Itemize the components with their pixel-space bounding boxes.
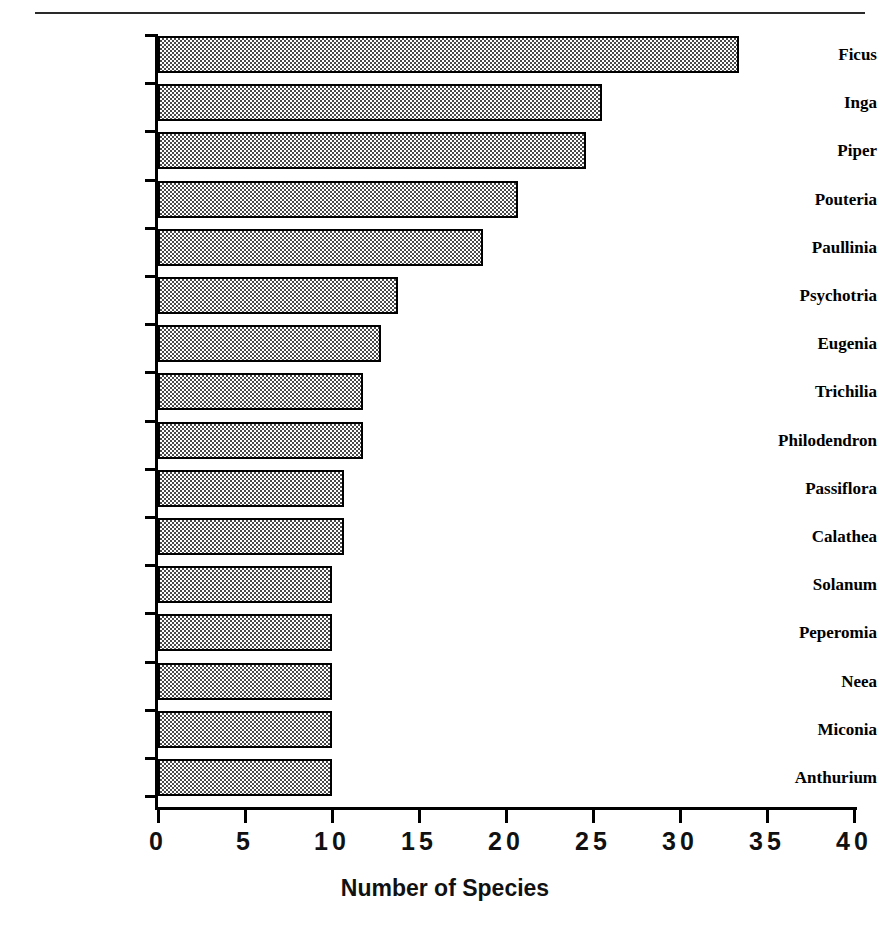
- y-label-ficus: Ficus: [742, 36, 890, 73]
- bar-eugenia: [158, 325, 381, 362]
- bar-fill: [158, 229, 483, 266]
- y-label-paullinia: Paullinia: [742, 229, 890, 266]
- bar-trichilia: [158, 373, 363, 410]
- bar-fill: [158, 277, 398, 314]
- y-tick-mark: [145, 323, 157, 326]
- bar-neea: [158, 663, 332, 700]
- bar-fill: [158, 181, 518, 218]
- bar-calathea: [158, 518, 344, 555]
- bar-piper: [158, 132, 586, 169]
- y-label-eugenia: Eugenia: [742, 325, 890, 362]
- x-tick-mark: [505, 810, 508, 823]
- y-tick-mark: [145, 468, 157, 471]
- x-tick-label-5: 5: [215, 827, 275, 856]
- y-tick-mark: [145, 516, 157, 519]
- x-tick-mark: [331, 810, 334, 823]
- x-tick-mark: [853, 810, 856, 823]
- y-tick-mark: [145, 82, 157, 85]
- y-label-passiflora: Passiflora: [742, 470, 890, 507]
- bar-peperomia: [158, 614, 332, 651]
- bar-fill: [158, 84, 602, 121]
- x-tick-label-40: 40: [824, 827, 884, 856]
- y-tick-mark: [145, 34, 157, 37]
- bar-psychotria: [158, 277, 398, 314]
- x-tick-label-10: 10: [302, 827, 362, 856]
- y-tick-mark: [145, 371, 157, 374]
- y-tick-mark: [145, 179, 157, 182]
- bar-fill: [158, 36, 739, 73]
- y-tick-mark: [145, 757, 157, 760]
- y-tick-mark: [145, 275, 157, 278]
- y-tick-mark: [145, 661, 157, 664]
- x-tick-label-30: 30: [650, 827, 710, 856]
- y-label-inga: Inga: [742, 84, 890, 121]
- x-tick-label-0: 0: [128, 827, 188, 856]
- bar-fill: [158, 132, 586, 169]
- y-label-trichilia: Trichilia: [742, 373, 890, 410]
- bar-miconia: [158, 711, 332, 748]
- y-tick-mark: [145, 564, 157, 567]
- bar-paullinia: [158, 229, 483, 266]
- y-tick-mark: [145, 709, 157, 712]
- clipped-caption-text: [95, 920, 795, 932]
- bar-solanum: [158, 566, 332, 603]
- y-label-psychotria: Psychotria: [742, 277, 890, 314]
- y-label-pouteria: Pouteria: [742, 181, 890, 218]
- bar-fill: [158, 518, 344, 555]
- bar-fill: [158, 663, 332, 700]
- bar-fill: [158, 566, 332, 603]
- x-tick-mark: [679, 810, 682, 823]
- y-label-peperomia: Peperomia: [742, 614, 890, 651]
- x-tick-label-25: 25: [563, 827, 623, 856]
- y-label-solanum: Solanum: [742, 566, 890, 603]
- y-label-philodendron: Philodendron: [742, 422, 890, 459]
- bar-chart: FicusIngaPiperPouteriaPaulliniaPsychotri…: [0, 0, 890, 932]
- bar-fill: [158, 470, 344, 507]
- x-axis-title: Number of Species: [0, 875, 890, 902]
- y-label-calathea: Calathea: [742, 518, 890, 555]
- y-tick-mark: [145, 420, 157, 423]
- y-label-neea: Neea: [742, 663, 890, 700]
- x-tick-mark: [157, 810, 160, 823]
- bar-pouteria: [158, 181, 518, 218]
- bar-philodendron: [158, 422, 363, 459]
- bar-inga: [158, 84, 602, 121]
- y-tick-mark: [145, 612, 157, 615]
- y-label-miconia: Miconia: [742, 711, 890, 748]
- x-tick-label-35: 35: [737, 827, 797, 856]
- bar-fill: [158, 325, 381, 362]
- bar-fill: [158, 759, 332, 796]
- x-tick-mark: [418, 810, 421, 823]
- bar-fill: [158, 373, 363, 410]
- x-tick-mark: [766, 810, 769, 823]
- bar-ficus: [158, 36, 739, 73]
- y-tick-mark: [145, 130, 157, 133]
- y-tick-mark: [145, 795, 157, 798]
- y-label-piper: Piper: [742, 132, 890, 169]
- bar-fill: [158, 711, 332, 748]
- bar-fill: [158, 422, 363, 459]
- x-tick-mark: [244, 810, 247, 823]
- bar-fill: [158, 614, 332, 651]
- x-tick-mark: [592, 810, 595, 823]
- bar-anthurium: [158, 759, 332, 796]
- bar-passiflora: [158, 470, 344, 507]
- x-tick-label-15: 15: [389, 827, 449, 856]
- y-label-anthurium: Anthurium: [742, 759, 890, 796]
- x-tick-label-20: 20: [476, 827, 536, 856]
- y-tick-mark: [145, 227, 157, 230]
